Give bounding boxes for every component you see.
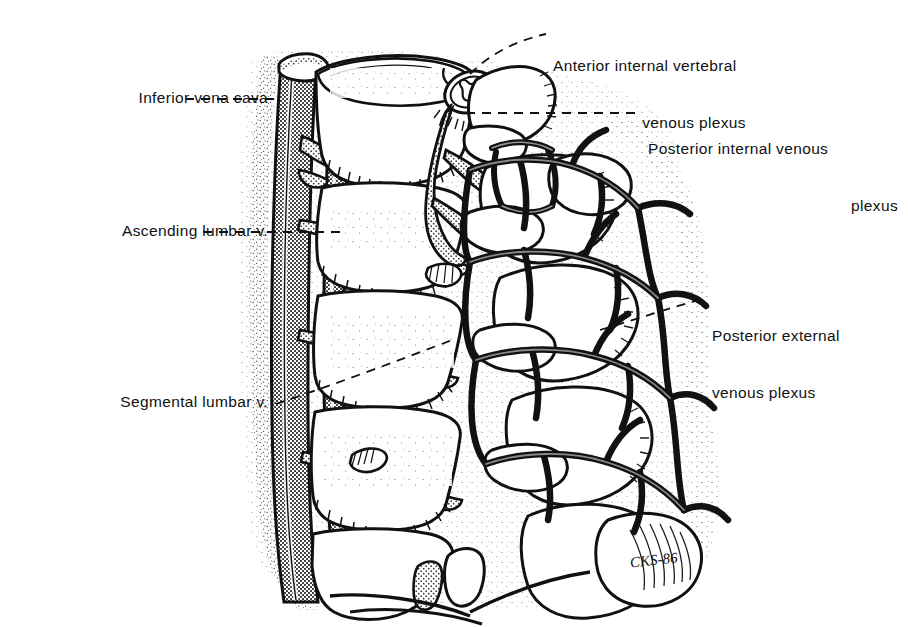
label-line-2: venous plexus [712,383,908,402]
label-line-2: plexus [648,196,906,215]
label-inferior-vena-cava: Inferior vena cava [28,88,268,107]
label-posterior-external-venous-plexus: Posterior external venous plexus [712,288,908,421]
label-segmental-lumbar-vein: Segmental lumbar v. [18,392,268,411]
label-ascending-lumbar-vein: Ascending lumbar v. [28,221,268,240]
label-posterior-internal-venous-plexus: Posterior internal venous plexus [648,101,906,234]
label-line-1: Posterior internal venous [648,139,906,158]
label-line-1: Posterior external [712,326,908,345]
label-line-1: Anterior internal vertebral [553,56,893,75]
